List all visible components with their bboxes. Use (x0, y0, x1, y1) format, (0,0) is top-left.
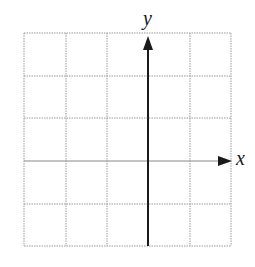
y-axis-arrow-icon (143, 36, 153, 50)
y-axis-label: y (143, 8, 152, 28)
grid-lines (24, 33, 231, 246)
x-axis-arrow-icon (218, 156, 232, 166)
coordinate-grid (0, 0, 255, 267)
x-axis-label: x (236, 148, 245, 168)
